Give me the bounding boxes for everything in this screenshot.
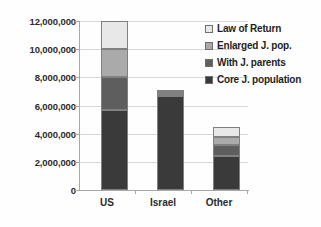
legend-item-label: Law of Return bbox=[217, 23, 281, 34]
y-tick-label: 6,000,000 bbox=[4, 101, 76, 112]
legend-item-law-of-return[interactable]: Law of Return bbox=[205, 21, 321, 36]
bar-segment-enlarged-j-pop bbox=[101, 49, 128, 77]
bar-segment-law-of-return bbox=[157, 90, 184, 92]
legend-item-label: With J. parents bbox=[217, 57, 286, 68]
x-tick-label-other: Other bbox=[191, 197, 247, 208]
x-tick-mark bbox=[135, 190, 136, 194]
bar-segment-with-j-parents bbox=[157, 94, 184, 96]
bar-segment-with-j-parents bbox=[213, 145, 240, 156]
x-tick-mark bbox=[247, 190, 248, 194]
y-tick-label: 2,000,000 bbox=[4, 157, 76, 168]
y-tick-label: 12,000,000 bbox=[4, 16, 76, 27]
chart-legend: Law of Return Enlarged J. pop. With J. p… bbox=[205, 21, 321, 89]
legend-swatch-icon bbox=[205, 42, 213, 50]
legend-swatch-icon bbox=[205, 59, 213, 67]
y-axis-line bbox=[79, 21, 80, 191]
x-axis-line bbox=[79, 190, 249, 191]
x-tick-mark bbox=[191, 190, 192, 194]
x-tick-label-us: US bbox=[79, 197, 135, 208]
legend-swatch-icon bbox=[205, 76, 213, 84]
y-tick-label: 0 bbox=[4, 185, 76, 196]
legend-item-label: Core J. population bbox=[217, 74, 301, 85]
y-tick-label: 10,000,000 bbox=[4, 44, 76, 55]
bar-segment-law-of-return bbox=[101, 21, 128, 49]
bar-segment-with-j-parents bbox=[101, 77, 128, 109]
bar-segment-enlarged-j-pop bbox=[213, 137, 240, 145]
legend-item-core-j-population[interactable]: Core J. population bbox=[205, 72, 321, 87]
legend-item-enlarged-j-pop[interactable]: Enlarged J. pop. bbox=[205, 38, 321, 53]
y-tick-label: 8,000,000 bbox=[4, 72, 76, 83]
stacked-bar-chart: 12,000,000 10,000,000 8,000,000 6,000,00… bbox=[0, 0, 321, 227]
bar-us[interactable] bbox=[101, 21, 128, 190]
x-tick-label-israel: Israel bbox=[135, 197, 191, 208]
bar-segment-core-j-population bbox=[101, 110, 128, 190]
legend-item-label: Enlarged J. pop. bbox=[217, 40, 292, 51]
y-axis-labels: 12,000,000 10,000,000 8,000,000 6,000,00… bbox=[0, 0, 76, 227]
bar-segment-law-of-return bbox=[213, 127, 240, 138]
bar-segment-core-j-population bbox=[213, 156, 240, 190]
bar-israel[interactable] bbox=[157, 21, 184, 190]
y-tick-label: 4,000,000 bbox=[4, 129, 76, 140]
bar-segment-core-j-population bbox=[157, 96, 184, 190]
legend-swatch-icon bbox=[205, 25, 213, 33]
legend-item-with-j-parents[interactable]: With J. parents bbox=[205, 55, 321, 70]
